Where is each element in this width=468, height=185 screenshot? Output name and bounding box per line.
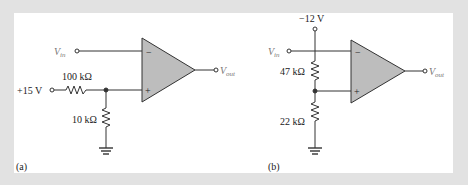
resistor-10k — [102, 108, 110, 127]
vin-label-a: Vin — [54, 46, 66, 59]
vin-label-b: Vin — [268, 46, 280, 59]
inverting-sign-b: − — [355, 47, 361, 58]
vin-terminal-a — [75, 49, 79, 53]
caption-b: (b) — [268, 161, 280, 173]
caption-a: (a) — [16, 161, 27, 173]
noninverting-sign-a: + — [145, 85, 151, 96]
resistor-22k — [311, 102, 319, 121]
resistor-100k — [66, 86, 86, 94]
supply-label-b: −12 V — [299, 13, 325, 24]
r-top-label-a: 100 kΩ — [62, 71, 92, 82]
noninverting-sign-b: + — [354, 86, 360, 97]
circuit-diagram: Vin Vout +15 V 100 kΩ 10 kΩ − + (a) −12 … — [0, 0, 468, 185]
r-bottom-label-a: 10 kΩ — [72, 114, 97, 125]
vout-label-b: Vout — [429, 66, 445, 79]
supply-label-a: +15 V — [17, 85, 43, 96]
inverting-sign-a: − — [146, 47, 152, 58]
resistor-47k — [311, 61, 319, 80]
vout-label-a: Vout — [220, 65, 236, 78]
r-top-label-b: 47 kΩ — [280, 66, 305, 77]
r-bottom-label-b: 22 kΩ — [280, 116, 305, 127]
